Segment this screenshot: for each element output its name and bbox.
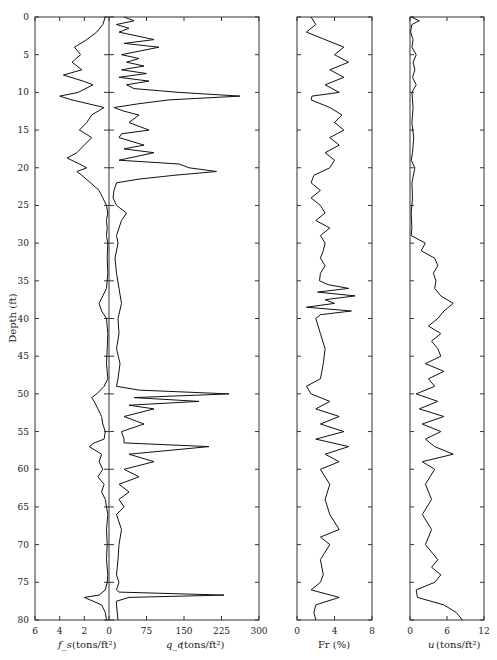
- fr-tick-label: 8: [369, 626, 375, 636]
- fr-tick-label: 0: [294, 626, 300, 636]
- fr-axis-title: Fr (%): [318, 639, 350, 650]
- depth-tick-label: 25: [18, 200, 30, 210]
- depth-tick-label: 65: [18, 502, 30, 512]
- fs-tick-label: 0: [106, 626, 112, 636]
- depth-tick-label: 20: [18, 163, 30, 173]
- fs-axis-title: f_s: [57, 639, 72, 651]
- depth-tick-label: 60: [18, 464, 30, 474]
- depth-tick-label: 55: [18, 427, 30, 437]
- fr-panel-frame: [297, 17, 372, 620]
- depth-tick-label: 5: [23, 50, 29, 60]
- qc-tick-label: 75: [141, 626, 153, 636]
- u-units: (tons/ft²): [436, 639, 481, 650]
- depth-tick-label: 35: [18, 276, 30, 286]
- qc-units: (tons/ft²): [180, 639, 225, 650]
- u-tick-label: 12: [478, 626, 489, 636]
- qc-tick-label: 150: [175, 626, 192, 636]
- depth-axis-title: Depth (ft): [7, 293, 18, 343]
- depth-tick-label: 0: [23, 12, 29, 22]
- depth-tick-label: 15: [18, 125, 30, 135]
- depth-tick-label: 45: [18, 351, 30, 361]
- fr-trace: [306, 17, 355, 620]
- fs-tick-label: 2: [81, 626, 87, 636]
- u-trace: [411, 17, 463, 620]
- fr-tick-label: 4: [332, 626, 338, 636]
- u-panel-frame: [410, 17, 484, 620]
- fs-qc-panel-frame: [35, 17, 259, 620]
- u-tick-label: 6: [444, 626, 450, 636]
- qc-trace: [113, 17, 240, 620]
- fs-tick-label: 6: [32, 626, 38, 636]
- tick-labels: 0510152025303540455055606570758064207515…: [18, 12, 490, 636]
- depth-tick-label: 75: [18, 577, 30, 587]
- depth-tick-label: 30: [18, 238, 30, 248]
- u-tick-label: 0: [407, 626, 413, 636]
- fs-units: (tons/ft²): [72, 639, 117, 650]
- depth-tick-label: 80: [18, 615, 30, 625]
- fs-tick-label: 4: [57, 626, 63, 636]
- u-axis-title: u: [428, 639, 434, 650]
- qc-tick-label: 225: [213, 626, 230, 636]
- qc-tick-label: 300: [250, 626, 267, 636]
- fs-trace: [60, 17, 108, 620]
- depth-tick-label: 40: [18, 314, 30, 324]
- depth-tick-label: 70: [18, 540, 30, 550]
- cpt-log-chart: 0510152025303540455055606570758064207515…: [0, 0, 497, 660]
- data-traces: [60, 17, 463, 620]
- depth-tick-label: 10: [18, 87, 30, 97]
- depth-tick-label: 50: [18, 389, 30, 399]
